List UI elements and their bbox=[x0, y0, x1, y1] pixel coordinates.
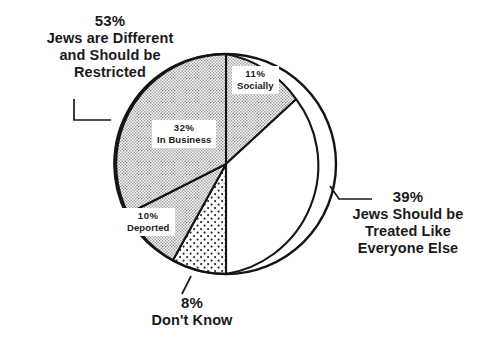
callout-treated-percent: 39% bbox=[340, 188, 476, 206]
callout-treated-line3: Everyone Else bbox=[340, 240, 476, 257]
callout-treated-equally: 39% Jews Should be Treated Like Everyone… bbox=[340, 188, 476, 257]
callout-restricted: 53% Jews are Different and Should be Res… bbox=[12, 12, 208, 81]
leader-line-restricted bbox=[74, 99, 111, 120]
slice-label-in-business: 32% In Business bbox=[152, 120, 216, 148]
slice-label-deported: 10% Deported bbox=[122, 208, 175, 236]
slice-label-deported-name: Deported bbox=[127, 222, 170, 234]
callout-dont-know-line1: Don't Know bbox=[128, 312, 256, 329]
callout-treated-line2: Treated Like bbox=[340, 223, 476, 240]
slice-label-deported-percent: 10% bbox=[127, 210, 170, 222]
pie-chart-figure: 53% Jews are Different and Should be Res… bbox=[0, 0, 480, 340]
callout-restricted-line3: Restricted bbox=[12, 64, 208, 81]
slice-label-in-business-percent: 32% bbox=[157, 122, 211, 134]
slice-label-in-business-name: In Business bbox=[157, 134, 211, 146]
callout-restricted-line2: and Should be bbox=[12, 47, 208, 64]
callout-restricted-percent: 53% bbox=[12, 12, 208, 30]
callout-treated-line1: Jews Should be bbox=[340, 206, 476, 223]
slice-label-socially-percent: 11% bbox=[237, 68, 274, 80]
slice-label-socially: 11% Socially bbox=[232, 66, 279, 94]
leader-line-dont-know bbox=[182, 276, 191, 294]
callout-dont-know-percent: 8% bbox=[128, 294, 256, 312]
callout-dont-know: 8% Don't Know bbox=[128, 294, 256, 329]
callout-restricted-line1: Jews are Different bbox=[12, 30, 208, 47]
slice-label-socially-name: Socially bbox=[237, 80, 274, 92]
